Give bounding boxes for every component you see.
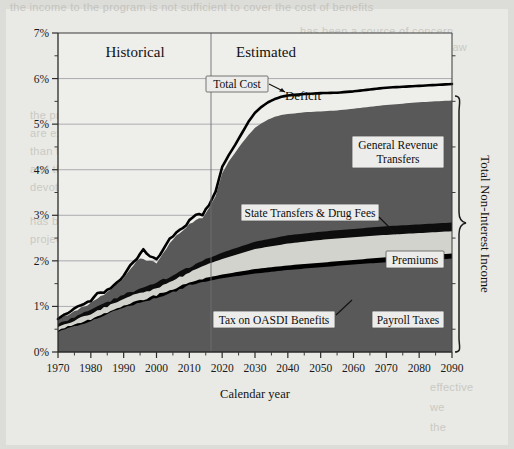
callout-payroll-taxes-label: Payroll Taxes <box>377 314 440 327</box>
x-axis-ticks <box>58 352 452 358</box>
total-non-interest-income-label: Total Non-Interest Income <box>478 155 493 293</box>
x-tick-label: 2050 <box>309 362 332 374</box>
total-non-interest-income-brace <box>455 96 466 352</box>
x-tick-label: 2090 <box>441 362 464 374</box>
x-tick-label: 1990 <box>112 362 135 374</box>
callout-state-transfers-label: State Transfers & Drug Fees <box>245 207 376 220</box>
x-tick-label: 1970 <box>47 362 70 374</box>
y-tick-label: 6% <box>34 73 50 85</box>
x-tick-label: 2080 <box>408 362 431 374</box>
y-tick-label: 3% <box>34 209 50 221</box>
x-tick-label: 2030 <box>244 362 267 374</box>
deficit-label: Deficit <box>285 88 321 103</box>
callout-grt-label-line2: Transfers <box>376 153 420 165</box>
y-tick-label: 1% <box>34 300 50 312</box>
y-tick-label: 2% <box>34 255 50 267</box>
estimated-label: Estimated <box>236 44 296 60</box>
callout-premiums-label: Premiums <box>392 254 439 266</box>
x-tick-label: 2060 <box>342 362 365 374</box>
callout-grt-label-line1: General Revenue <box>358 139 438 151</box>
x-tick-label: 2020 <box>211 362 234 374</box>
chart-svg: 0%1%2%3%4%5%6%7% 19701980199020002010202… <box>0 0 514 449</box>
x-tick-label: 2070 <box>375 362 398 374</box>
historical-label: Historical <box>105 44 164 60</box>
y-tick-label: 0% <box>34 346 50 358</box>
y-axis-tick-labels: 0%1%2%3%4%5%6%7% <box>34 27 50 358</box>
y-tick-label: 5% <box>34 118 50 130</box>
callout-premiums: Premiums <box>386 251 444 268</box>
y-tick-label: 7% <box>34 27 50 39</box>
y-tick-label: 4% <box>34 164 50 176</box>
x-tick-label: 1980 <box>79 362 102 374</box>
callout-total-cost-label: Total Cost <box>213 78 261 90</box>
stacked-area-chart: 0%1%2%3%4%5%6%7% 19701980199020002010202… <box>0 0 514 449</box>
x-axis-title: Calendar year <box>220 387 291 401</box>
callout-tax-oasdi-label: Tax on OASDI Benefits <box>219 314 330 326</box>
x-axis-tick-labels: 1970198019902000201020202030204020502060… <box>47 362 464 374</box>
scanned-page: the income to the program is not suffici… <box>0 0 514 449</box>
x-tick-label: 2040 <box>276 362 299 374</box>
x-tick-label: 2000 <box>145 362 168 374</box>
callout-general-revenue-transfers: General Revenue Transfers <box>352 136 444 168</box>
x-tick-label: 2010 <box>178 362 201 374</box>
callout-payroll-taxes: Payroll Taxes <box>372 311 444 328</box>
